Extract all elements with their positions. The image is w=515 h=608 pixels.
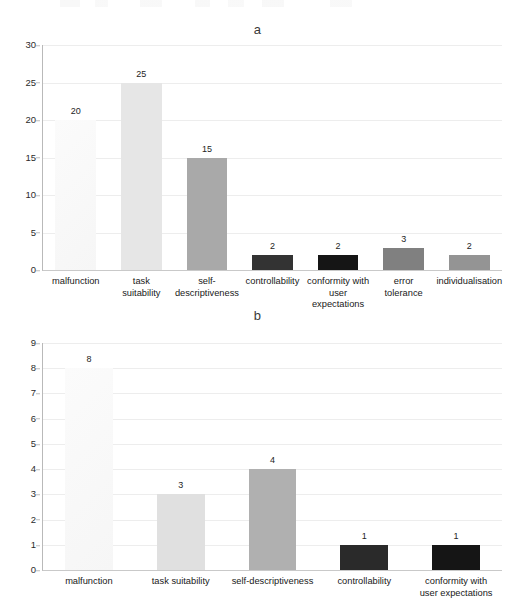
bar-group[interactable]: 2 <box>252 242 293 270</box>
bar[interactable] <box>318 255 359 270</box>
x-axis-category-line: malfunction <box>43 576 135 588</box>
bar-value-label: 1 <box>454 532 459 541</box>
bar-value-label: 20 <box>71 107 81 116</box>
bar-value-label: 25 <box>136 70 146 79</box>
bar[interactable] <box>249 469 297 570</box>
bar-value-label: 2 <box>336 242 341 251</box>
x-axis-category-label: conformity withuser expectations <box>410 576 502 599</box>
gridline <box>43 158 502 159</box>
bar-value-label: 15 <box>202 145 212 154</box>
x-axis-category-line: conformity with <box>410 576 502 588</box>
bar-value-label: 1 <box>362 532 367 541</box>
bar-value-label: 3 <box>401 235 406 244</box>
gridline <box>43 120 502 121</box>
x-axis-category-label: malfunction <box>43 276 109 288</box>
bar-value-label: 8 <box>86 355 91 364</box>
x-axis-category-line: descriptiveness <box>174 288 240 300</box>
y-axis-tick-label: 1 <box>31 540 36 550</box>
y-axis-tick-label: 25 <box>25 78 36 88</box>
bar-value-label: 2 <box>467 242 472 251</box>
x-axis-category-line: self- <box>174 276 240 288</box>
x-axis-category-line: tolerance <box>371 288 437 300</box>
bar[interactable] <box>383 248 424 271</box>
x-axis-category-line: user expectations <box>410 588 502 600</box>
y-axis-tick-label: 3 <box>31 490 36 500</box>
figure-a: a 05101520253020malfunction25tasksuitabi… <box>0 0 515 305</box>
bar[interactable] <box>340 545 388 570</box>
plot-area-b: 01234567898malfunction3task suitability4… <box>42 343 502 571</box>
y-axis-tick-label: 20 <box>25 115 36 125</box>
bar[interactable] <box>432 545 480 570</box>
y-axis-tick-label: 15 <box>25 153 36 163</box>
x-axis-category-line: task <box>109 276 175 288</box>
y-axis-tick-label: 5 <box>31 439 36 449</box>
bar-group[interactable]: 3 <box>383 235 424 271</box>
bar-group[interactable]: 20 <box>55 107 96 270</box>
bar-group[interactable]: 1 <box>340 532 388 570</box>
y-axis-tick-label: 8 <box>31 363 36 373</box>
bar-group[interactable]: 2 <box>449 242 490 270</box>
gridline <box>43 233 502 234</box>
x-axis-category-label: self-descriptiveness <box>227 576 319 588</box>
y-axis-tick-label: 5 <box>31 228 36 238</box>
gridline <box>43 83 502 84</box>
x-axis-category-line: task suitability <box>135 576 227 588</box>
x-axis-category-label: controllability <box>240 276 306 288</box>
bar[interactable] <box>55 120 96 270</box>
bar-group[interactable]: 4 <box>249 456 297 570</box>
bar-group[interactable]: 2 <box>318 242 359 270</box>
x-axis-category-label: individualisation <box>436 276 502 288</box>
bar-value-label: 3 <box>178 481 183 490</box>
x-axis-category-label: tasksuitability <box>109 276 175 299</box>
x-axis-category-line: controllability <box>240 276 306 288</box>
y-axis-tick-label: 10 <box>25 190 36 200</box>
y-axis-tick-label: 30 <box>25 40 36 50</box>
panel-b-title: b <box>0 308 515 323</box>
bar-group[interactable]: 8 <box>65 355 113 570</box>
bar-group[interactable]: 25 <box>121 70 162 271</box>
x-axis-category-line: self-descriptiveness <box>227 576 319 588</box>
bar-value-label: 4 <box>270 456 275 465</box>
bar-value-label: 2 <box>270 242 275 251</box>
y-axis-tick-label: 0 <box>31 565 36 575</box>
bar[interactable] <box>157 494 205 570</box>
y-axis-tick-label: 7 <box>31 389 36 399</box>
x-axis-category-label: errortolerance <box>371 276 437 299</box>
x-axis-category-label: self-descriptiveness <box>174 276 240 299</box>
x-axis-category-label: task suitability <box>135 576 227 588</box>
x-axis-category-label: controllability <box>318 576 410 588</box>
x-axis-category-line: malfunction <box>43 276 109 288</box>
y-axis-tick-label: 9 <box>31 338 36 348</box>
x-axis-category-line: error <box>371 276 437 288</box>
gridline <box>43 45 502 46</box>
x-axis-category-label: malfunction <box>43 576 135 588</box>
bar[interactable] <box>187 158 228 271</box>
y-axis-tick-label: 0 <box>31 265 36 275</box>
bar-group[interactable]: 15 <box>187 145 228 271</box>
y-axis-tick-label: 4 <box>31 464 36 474</box>
bar-group[interactable]: 3 <box>157 481 205 570</box>
bar[interactable] <box>252 255 293 270</box>
bar[interactable] <box>449 255 490 270</box>
y-axis-tick-label: 2 <box>31 515 36 525</box>
gridline <box>43 343 502 344</box>
gridline <box>43 195 502 196</box>
y-axis-tick-label: 6 <box>31 414 36 424</box>
x-axis-category-line: suitability <box>109 288 175 300</box>
plot-area-a: 05101520253020malfunction25tasksuitabili… <box>42 45 502 271</box>
bar[interactable] <box>65 368 113 570</box>
bar-group[interactable]: 1 <box>432 532 480 570</box>
x-axis-category-line: controllability <box>318 576 410 588</box>
panel-a-title: a <box>0 22 515 37</box>
x-axis-category-line: individualisation <box>436 276 502 288</box>
x-axis-category-line: conformity with <box>305 276 371 288</box>
figure-b: b 01234567898malfunction3task suitabilit… <box>0 300 515 608</box>
bar[interactable] <box>121 83 162 271</box>
